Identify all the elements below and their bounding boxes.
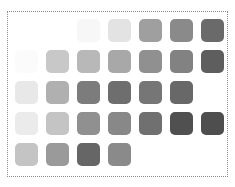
swatch-r3-c5[interactable]	[139, 81, 162, 104]
swatch-r4-c1[interactable]	[15, 112, 38, 135]
swatch-r5-c2[interactable]	[46, 143, 69, 166]
swatch-r1-c7[interactable]	[201, 19, 224, 42]
swatch-r3-c3[interactable]	[77, 81, 100, 104]
swatch-r4-c6[interactable]	[170, 112, 193, 135]
swatch-r1-c3[interactable]	[77, 19, 100, 42]
swatch-r1-c6[interactable]	[170, 19, 193, 42]
swatch-r2-c4[interactable]	[108, 50, 131, 73]
swatch-r4-c4[interactable]	[108, 112, 131, 135]
swatch-r4-c3[interactable]	[77, 112, 100, 135]
swatch-r5-c3[interactable]	[77, 143, 100, 166]
swatch-r3-c2[interactable]	[46, 81, 69, 104]
swatch-r3-c6[interactable]	[170, 81, 193, 104]
swatch-r3-c4[interactable]	[108, 81, 131, 104]
swatch-r2-c3[interactable]	[77, 50, 100, 73]
swatch-r4-c7[interactable]	[201, 112, 224, 135]
swatch-r4-c5[interactable]	[139, 112, 162, 135]
swatch-r4-c2[interactable]	[46, 112, 69, 135]
swatch-r3-c1[interactable]	[15, 81, 38, 104]
swatch-r2-c5[interactable]	[139, 50, 162, 73]
swatch-r2-c6[interactable]	[170, 50, 193, 73]
swatch-r2-c1[interactable]	[15, 50, 38, 73]
swatch-r1-c4[interactable]	[108, 19, 131, 42]
swatch-r5-c4[interactable]	[108, 143, 131, 166]
swatch-r2-c7[interactable]	[201, 50, 224, 73]
swatch-r1-c5[interactable]	[139, 19, 162, 42]
color-swatch-grid	[0, 0, 235, 187]
swatch-r5-c1[interactable]	[15, 143, 38, 166]
swatch-r2-c2[interactable]	[46, 50, 69, 73]
